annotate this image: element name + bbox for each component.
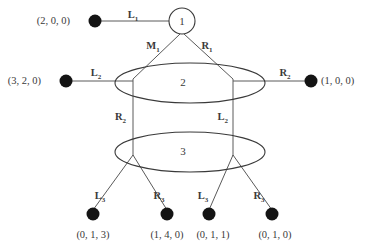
edge-n1-left [133, 34, 180, 79]
edge-label-e-m1: M1 [146, 40, 160, 54]
diagram-canvas: 123 (2, 0, 0)(3, 2, 0)(1, 0, 0)(0, 1, 3)… [0, 0, 374, 252]
edge-label-e-l3a: L3 [95, 190, 106, 204]
node-label-n3: 3 [180, 145, 186, 157]
terminal-dot-t7 [266, 208, 279, 221]
terminal-label-t7: (0, 1, 0) [258, 229, 292, 241]
diagram-svg: 123 (2, 0, 0)(3, 2, 0)(1, 0, 0)(0, 1, 3)… [0, 0, 374, 252]
terminal-dot-t5 [161, 208, 174, 221]
terminals-group: (2, 0, 0)(3, 2, 0)(1, 0, 0)(0, 1, 3)(1, … [8, 15, 355, 242]
node-shape-n2 [115, 63, 265, 103]
nodes-group: 123 [115, 8, 265, 172]
node-label-n2: 2 [180, 76, 186, 88]
edge-labels-group: L1M1R1L2R2R2L2L3R3L3R3 [91, 9, 291, 204]
node-label-n1: 1 [179, 15, 185, 27]
edge-label-e-r3b: R3 [253, 190, 265, 204]
edge-label-e-l2a: L2 [91, 67, 102, 81]
terminal-dot-t4 [87, 208, 100, 221]
terminal-label-t2: (3, 2, 0) [8, 75, 42, 87]
edge-label-e-r2a: R2 [279, 67, 291, 81]
edge-label-e-l2b: L2 [217, 111, 228, 125]
terminal-label-t5: (1, 4, 0) [150, 229, 184, 241]
terminal-dot-t3 [305, 75, 318, 88]
terminal-label-t3: (1, 0, 0) [321, 75, 355, 87]
edge-n3-t6 [209, 155, 233, 210]
edge-label-e-r2b: R2 [115, 111, 127, 125]
terminal-dot-t6 [203, 208, 216, 221]
edges-group [66, 21, 311, 210]
terminal-dot-t2 [60, 75, 73, 88]
edge-label-e-l3b: L3 [198, 190, 209, 204]
terminal-label-t6: (0, 1, 1) [196, 229, 230, 241]
edge-label-e-r3a: R3 [153, 190, 165, 204]
terminal-label-t1: (2, 0, 0) [37, 15, 71, 27]
terminal-label-t4: (0, 1, 3) [76, 229, 110, 241]
node-shape-n3 [115, 132, 265, 172]
terminal-dot-t1 [89, 15, 102, 28]
